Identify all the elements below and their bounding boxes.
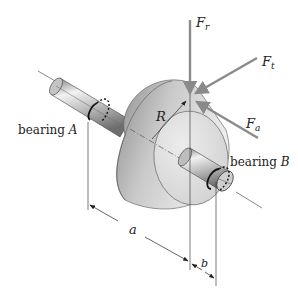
force-tangential-arrow: [196, 58, 257, 93]
shaft-axis-right: [236, 192, 262, 208]
gear-body: [117, 80, 233, 209]
label-dim-b: b: [201, 257, 208, 270]
label-radius: R: [155, 109, 166, 124]
dim-a-arrow-right: [145, 237, 188, 261]
dim-b-arrow-right: [205, 272, 214, 278]
dim-a-arrow-left: [90, 205, 118, 221]
label-force-tangential: Ft: [261, 54, 275, 71]
shaft-gear-diagram: Fr Ft Fa R bearing A bearing B a b: [0, 0, 298, 302]
label-force-radial: Fr: [195, 15, 210, 32]
label-dim-a: a: [129, 222, 137, 237]
label-force-axial: Fa: [245, 116, 260, 133]
label-bearing-a: bearing A: [18, 123, 78, 137]
label-bearing-b: bearing B: [230, 155, 290, 169]
